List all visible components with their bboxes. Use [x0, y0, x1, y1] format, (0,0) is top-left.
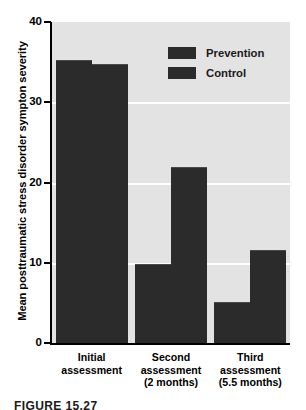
y-tick-label-40: 40	[2, 16, 42, 28]
x-tick-label-line: assessment	[204, 364, 296, 377]
x-tick-label-line: (5.5 months)	[204, 376, 296, 389]
x-tick-label-line: assessment	[125, 364, 217, 377]
x-tick-label-line: (2 months)	[125, 376, 217, 389]
x-axis-tick-labels: InitialassessmentSecondassessment(2 mont…	[52, 351, 290, 399]
legend-swatch-prevention	[168, 47, 196, 59]
chart-legend: Prevention Control	[168, 44, 264, 84]
x-tick-label-2: Secondassessment(2 months)	[125, 351, 217, 389]
bar-prevention-group-2	[135, 264, 171, 343]
figure-caption: FIGURE 15.27	[14, 399, 98, 410]
figure-container: Mean posttraumatic stress disorder sympt…	[0, 0, 306, 410]
bar-prevention-group-3	[214, 302, 250, 343]
x-tick-label-line: Initial	[46, 351, 138, 364]
y-tick-label-20: 20	[2, 177, 42, 189]
bar-control-group-2	[171, 167, 207, 343]
legend-swatch-control	[168, 67, 196, 79]
legend-label-control: Control	[206, 67, 246, 79]
y-tick-label-10: 10	[2, 257, 42, 269]
bar-prevention-group-1	[56, 60, 92, 343]
legend-item-prevention: Prevention	[168, 44, 264, 61]
bar-control-group-1	[92, 64, 128, 343]
x-tick-label-3: Thirdassessment(5.5 months)	[204, 351, 296, 389]
x-axis-line	[50, 343, 290, 345]
x-tick-label-line: Second	[125, 351, 217, 364]
x-tick-label-1: Initialassessment	[46, 351, 138, 376]
x-tick-label-line: Third	[204, 351, 296, 364]
legend-item-control: Control	[168, 64, 264, 81]
x-tick-label-line: assessment	[46, 364, 138, 377]
bar-control-group-3	[250, 250, 286, 343]
legend-label-prevention: Prevention	[206, 47, 264, 59]
y-tick-label-0: 0	[2, 337, 42, 349]
y-tick-label-30: 30	[2, 96, 42, 108]
